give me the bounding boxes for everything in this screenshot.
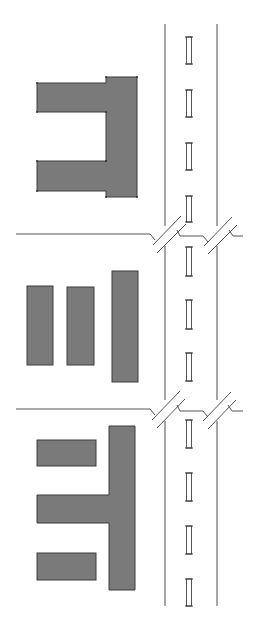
building-wing-top [37, 440, 96, 466]
building-t-shaped [37, 426, 135, 590]
junction-crossing-line [177, 405, 208, 417]
lane-dash [187, 90, 192, 117]
break-mark [204, 217, 232, 246]
building-bar-3 [112, 271, 138, 382]
break-mark [157, 399, 185, 428]
building-u-shaped [36, 76, 138, 198]
break-mark [208, 400, 236, 429]
building-bar-2 [67, 287, 94, 365]
side-street-lower [16, 409, 155, 415]
junction-upper [16, 216, 243, 254]
building-bar-1 [27, 286, 53, 365]
building-wing-bottom [37, 553, 96, 580]
building-three-bars [27, 271, 138, 382]
lane-dash [187, 196, 192, 222]
lane-dash [187, 420, 192, 448]
lane-dash [187, 353, 192, 381]
junction-lower [16, 391, 243, 429]
lane-dash [187, 579, 192, 606]
junction-crossing-line [177, 230, 208, 242]
break-mark [157, 224, 186, 253]
break-mark [152, 391, 180, 420]
side-street-upper [16, 234, 155, 240]
building-u-block [37, 77, 137, 197]
site-plan [0, 0, 257, 623]
lane-dash [187, 143, 192, 170]
lane-dash [187, 37, 192, 64]
lane-dash [187, 526, 192, 554]
lane-dash [187, 473, 192, 501]
lane-dash [187, 300, 192, 329]
lane-dash [187, 247, 192, 276]
road-center-dashes [185, 37, 193, 606]
break-mark [208, 225, 237, 254]
